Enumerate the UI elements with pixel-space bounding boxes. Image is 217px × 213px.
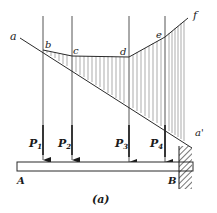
- label-p2: P2: [57, 137, 71, 151]
- label-p3: P3: [114, 137, 128, 151]
- beam: [17, 162, 193, 171]
- label-support-a: A: [16, 175, 25, 186]
- label-f: f: [192, 9, 199, 22]
- closing-line-aa: [20, 38, 192, 148]
- fixed-wall-support: [179, 146, 192, 189]
- funicular-polygon: [43, 18, 188, 57]
- figure-caption: (a): [92, 193, 110, 206]
- label-a: a: [10, 30, 17, 43]
- hatch-region: [47, 21, 184, 141]
- label-p1: P1: [28, 137, 42, 151]
- label-e: e: [156, 29, 162, 40]
- label-b: b: [45, 39, 51, 50]
- label-support-b: B: [167, 175, 176, 186]
- label-d: d: [120, 46, 126, 57]
- label-c: c: [73, 45, 79, 56]
- label-a-prime: a': [195, 127, 204, 138]
- label-p4: P4: [149, 137, 163, 151]
- funicular-polygon-diagram: a b c d e f a' P1 P2 P3 P4 A B (a): [0, 0, 217, 213]
